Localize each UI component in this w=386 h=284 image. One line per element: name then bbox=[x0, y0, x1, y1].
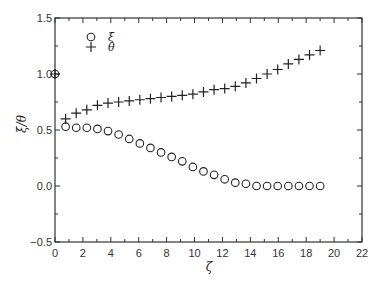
y-tick-label: 0.0 bbox=[37, 180, 52, 192]
circle-marker bbox=[200, 168, 208, 176]
x-tick-label: 22 bbox=[356, 247, 368, 259]
plus-marker bbox=[82, 105, 92, 115]
circle-marker bbox=[221, 175, 229, 183]
x-tick-label: 4 bbox=[108, 247, 114, 259]
plus-marker bbox=[61, 114, 71, 124]
circle-marker bbox=[83, 124, 91, 132]
circle-marker bbox=[72, 124, 80, 132]
plus-marker bbox=[135, 95, 145, 105]
plus-marker bbox=[241, 78, 251, 88]
plus-marker bbox=[156, 93, 166, 103]
plus-marker bbox=[294, 54, 304, 64]
circle-marker bbox=[104, 127, 112, 135]
x-tick-label: 20 bbox=[328, 247, 340, 259]
plus-marker bbox=[92, 100, 102, 110]
data-series bbox=[50, 45, 325, 189]
circle-marker bbox=[178, 158, 186, 166]
x-tick-label: 2 bbox=[80, 247, 86, 259]
x-tick-label: 6 bbox=[136, 247, 142, 259]
circle-marker bbox=[94, 125, 102, 133]
plus-marker bbox=[230, 81, 240, 91]
circle-marker bbox=[242, 180, 250, 188]
circle-marker bbox=[168, 153, 176, 161]
plus-marker bbox=[177, 90, 187, 100]
plus-marker bbox=[315, 45, 325, 55]
x-tick-label: 0 bbox=[52, 247, 58, 259]
legend-label: θ bbox=[108, 41, 115, 54]
x-tick-label: 10 bbox=[188, 247, 200, 259]
circle-marker bbox=[210, 171, 218, 179]
plus-marker bbox=[71, 108, 81, 118]
circle-marker bbox=[115, 131, 123, 139]
circle-marker bbox=[157, 149, 165, 157]
plus-marker bbox=[198, 87, 208, 97]
circle-marker bbox=[147, 144, 155, 152]
circle-marker bbox=[306, 182, 314, 190]
y-tick-label: −0.5 bbox=[30, 236, 52, 248]
scatter-chart: 0246810121416182022−0.50.00.51.01.5 ξθ ζ… bbox=[0, 0, 386, 284]
plus-marker bbox=[103, 98, 113, 108]
plus-marker bbox=[124, 96, 134, 106]
circle-marker bbox=[253, 182, 261, 190]
axis-tick-labels: 0246810121416182022−0.50.00.51.01.5 bbox=[30, 12, 368, 259]
plus-marker bbox=[188, 89, 198, 99]
x-tick-label: 16 bbox=[272, 247, 284, 259]
x-tick-label: 18 bbox=[300, 247, 312, 259]
plus-marker bbox=[305, 50, 315, 60]
y-tick-label: 1.5 bbox=[37, 12, 52, 24]
legend-item: θ bbox=[86, 41, 115, 54]
x-tick-label: 14 bbox=[244, 247, 256, 259]
series-xi bbox=[51, 70, 324, 190]
plus-marker bbox=[145, 94, 155, 104]
circle-marker bbox=[189, 163, 197, 171]
x-tick-label: 12 bbox=[216, 247, 228, 259]
plus-marker bbox=[209, 85, 219, 95]
plus-marker bbox=[167, 91, 177, 101]
legend: ξθ bbox=[86, 31, 115, 54]
y-axis-label: ξ/θ bbox=[15, 114, 29, 133]
circle-marker bbox=[316, 182, 324, 190]
plus-marker bbox=[262, 69, 272, 79]
circle-marker bbox=[125, 135, 133, 143]
plus-marker bbox=[273, 65, 283, 75]
circle-marker bbox=[285, 182, 293, 190]
plus-marker bbox=[252, 73, 262, 83]
y-tick-label: 0.5 bbox=[37, 124, 52, 136]
circle-marker bbox=[263, 182, 271, 190]
plus-marker bbox=[283, 59, 293, 69]
y-tick-label: 1.0 bbox=[37, 68, 52, 80]
series-theta bbox=[50, 45, 325, 123]
circle-marker bbox=[87, 33, 95, 41]
circle-marker bbox=[231, 179, 239, 187]
circle-marker bbox=[295, 182, 303, 190]
x-tick-label: 8 bbox=[164, 247, 170, 259]
plus-marker bbox=[86, 42, 96, 52]
x-axis-label: ζ bbox=[206, 260, 214, 274]
plus-marker bbox=[220, 84, 230, 94]
circle-marker bbox=[62, 123, 70, 131]
circle-marker bbox=[274, 182, 282, 190]
plus-marker bbox=[114, 97, 124, 107]
circle-marker bbox=[136, 140, 144, 148]
